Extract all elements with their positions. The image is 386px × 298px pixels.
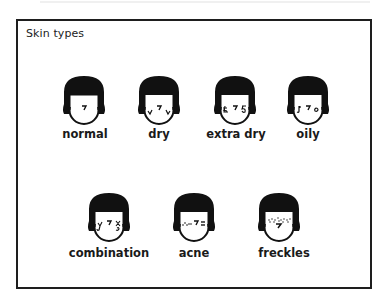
- face-normal-icon: [60, 74, 108, 126]
- face-acne-icon: [170, 191, 218, 243]
- face-combination-icon: [85, 191, 133, 243]
- panel-title: Skin types: [26, 27, 84, 40]
- label-oily: oily: [258, 127, 358, 141]
- label-acne: acne: [144, 246, 244, 260]
- top-divider: [40, 1, 370, 3]
- face-freckles-icon: [255, 191, 303, 243]
- face-oily-icon: [284, 74, 332, 126]
- face-dry-icon: [135, 74, 183, 126]
- face-extra-dry-icon: [211, 74, 259, 126]
- label-freckles: freckles: [234, 246, 334, 260]
